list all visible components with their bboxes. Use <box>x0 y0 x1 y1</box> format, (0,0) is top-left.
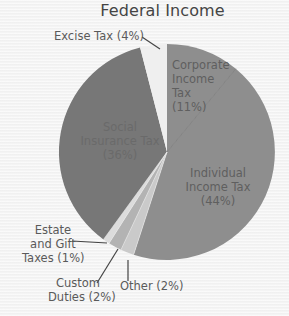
label-individual-income-tax: Individual Income Tax (44%) <box>176 166 260 208</box>
federal-income-pie-chart: Federal Income <box>0 0 289 316</box>
label-custom-duties: Custom Duties (2%) <box>48 276 108 304</box>
label-line: Tax <box>172 86 230 100</box>
label-other: Other (2%) <box>120 279 184 293</box>
label-line: Taxes (1%) <box>22 251 84 265</box>
label-line: Individual <box>176 166 260 180</box>
label-line: (36%) <box>72 148 168 162</box>
label-social-insurance-tax: Social Insurance Tax (36%) <box>72 120 168 162</box>
label-line: and Gift <box>22 237 84 251</box>
label-line: Social <box>72 120 168 134</box>
label-line: Corporate <box>172 58 230 72</box>
label-line: (11%) <box>172 100 230 114</box>
label-line: (44%) <box>176 194 260 208</box>
label-excise-tax: Excise Tax (4%) <box>54 29 144 43</box>
label-line: Income <box>172 72 230 86</box>
label-corporate-income-tax: Corporate Income Tax (11%) <box>172 58 230 114</box>
label-estate-gift-taxes: Estate and Gift Taxes (1%) <box>22 223 84 265</box>
label-line: Income Tax <box>176 180 260 194</box>
label-line: Insurance Tax <box>72 134 168 148</box>
label-line: Estate <box>22 223 84 237</box>
label-line: Duties (2%) <box>48 290 108 304</box>
label-line: Custom <box>48 276 108 290</box>
